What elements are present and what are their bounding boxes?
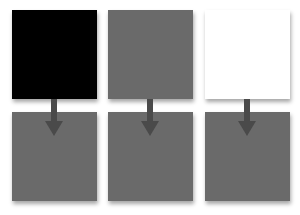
source-square-gray [108, 10, 193, 99]
down-arrow-icon [237, 99, 257, 136]
down-arrow-icon [44, 99, 64, 136]
source-square-black [12, 10, 97, 99]
source-square-white [205, 10, 290, 99]
down-arrow-icon [140, 99, 160, 136]
